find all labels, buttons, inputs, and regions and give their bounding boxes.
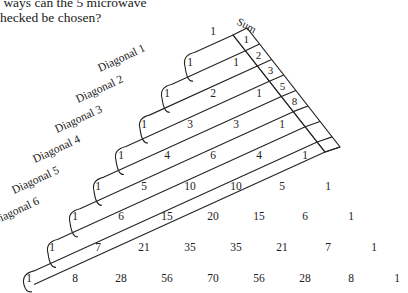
triangle-entry: 56 <box>161 272 173 284</box>
triangle-entry: 6 <box>118 210 124 222</box>
triangle-entry: 1 <box>371 241 377 253</box>
diagonal-strip-3 <box>139 66 257 143</box>
triangle-entry: 1 <box>118 149 124 161</box>
sum-value: 5 <box>280 80 286 92</box>
triangle-entry: 4 <box>256 149 262 161</box>
triangle-entry: 35 <box>184 241 196 253</box>
triangle-entry: 2 <box>210 87 216 99</box>
sum-values: 12358 <box>243 33 297 107</box>
triangle-entry: 1 <box>187 56 193 68</box>
triangle-entry: 1 <box>95 180 101 192</box>
sum-cell-divider <box>305 121 320 126</box>
triangle-entry: 28 <box>299 272 311 284</box>
sum-value: 3 <box>268 64 274 76</box>
diagonal-label-4: Diagonal 4 <box>31 132 83 165</box>
sum-box-inner-edge <box>233 35 325 152</box>
triangle-entry: 7 <box>95 241 101 253</box>
triangle-entry: 3 <box>187 118 193 130</box>
triangle-entry: 21 <box>276 241 288 253</box>
triangle-entry: 1 <box>325 180 331 192</box>
triangle-entry: 15 <box>161 210 173 222</box>
sum-value: 2 <box>256 49 262 61</box>
triangle-entry: 7 <box>325 241 331 253</box>
triangle-entry: 8 <box>348 272 354 284</box>
triangle-entry: 1 <box>256 87 262 99</box>
triangle-entry: 21 <box>138 241 150 253</box>
pascal-triangle-fibonacci-diagram: Sum 12358 111121133114641151010511615201… <box>0 0 408 293</box>
triangle-entry: 1 <box>302 149 308 161</box>
triangle-entry: 1 <box>210 25 216 37</box>
triangle-entry: 1 <box>348 210 354 222</box>
triangle-entry: 10 <box>184 180 196 192</box>
sum-value: 8 <box>292 95 298 107</box>
sum-cell-divider <box>317 137 332 142</box>
triangle-entry: 4 <box>164 149 170 161</box>
triangle-entry: 15 <box>253 210 265 222</box>
triangle-entry: 20 <box>207 210 219 222</box>
triangle-entry: 10 <box>230 180 242 192</box>
triangle-entry: 8 <box>72 272 78 284</box>
diagonal-strips <box>23 35 325 292</box>
triangle-entry: 6 <box>302 210 308 222</box>
triangle-entry: 1 <box>141 118 147 130</box>
diagonal-strip-7 <box>47 127 305 268</box>
triangle-entry: 5 <box>279 180 285 192</box>
triangle-entry: 56 <box>253 272 265 284</box>
diagonal-label-6: Diagonal 6 <box>0 194 42 227</box>
triangle-numbers: 1111211331146411510105116152015611721353… <box>26 25 400 284</box>
diagonal-labels: Diagonal 1Diagonal 2Diagonal 3Diagonal 4… <box>0 41 148 227</box>
triangle-entry: 1 <box>164 87 170 99</box>
sum-value: 1 <box>243 33 249 45</box>
triangle-entry: 28 <box>115 272 127 284</box>
triangle-entry: 1 <box>233 56 239 68</box>
diagonal-label-1: Diagonal 1 <box>96 41 148 74</box>
diagonal-label-2: Diagonal 2 <box>74 72 126 105</box>
triangle-entry: 1 <box>26 272 32 284</box>
triangle-entry: 1 <box>279 118 285 130</box>
diagonal-label-3: Diagonal 3 <box>53 102 105 135</box>
triangle-entry: 5 <box>141 180 147 192</box>
triangle-entry: 70 <box>207 272 219 284</box>
diagonal-label-5: Diagonal 5 <box>10 163 62 196</box>
triangle-entry: 1 <box>394 272 400 284</box>
triangle-entry: 1 <box>72 210 78 222</box>
triangle-entry: 1 <box>49 241 55 253</box>
triangle-entry: 3 <box>233 118 239 130</box>
triangle-entry: 6 <box>210 149 216 161</box>
triangle-entry: 35 <box>230 241 242 253</box>
